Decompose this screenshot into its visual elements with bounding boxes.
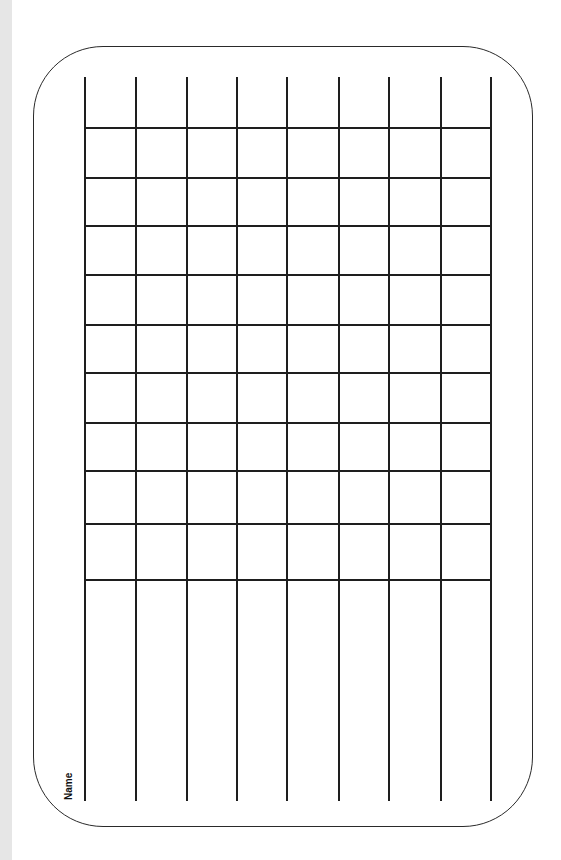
grid-row-line [84, 372, 490, 374]
grid-row-line [84, 225, 490, 227]
grid-row-line [84, 324, 490, 326]
grid-column-line [490, 77, 492, 801]
grid-column-line [135, 77, 137, 801]
grid-row-line [84, 274, 490, 276]
name-label: Name [63, 773, 74, 800]
grid-column-line [236, 77, 238, 801]
grid-row-line [84, 177, 490, 179]
grid-row-line [84, 523, 490, 525]
grid-column-line [338, 77, 340, 801]
grid-column-line [440, 77, 442, 801]
grid-row-line [84, 422, 490, 424]
grid-column-line [186, 77, 188, 801]
grid-row-line [84, 579, 490, 581]
grid-column-line [388, 77, 390, 801]
grid-row-line [84, 127, 490, 129]
page-gutter [0, 0, 12, 860]
worksheet-frame [33, 46, 533, 827]
grid-row-line [84, 470, 490, 472]
grid-column-line [84, 77, 86, 801]
grid-column-line [286, 77, 288, 801]
